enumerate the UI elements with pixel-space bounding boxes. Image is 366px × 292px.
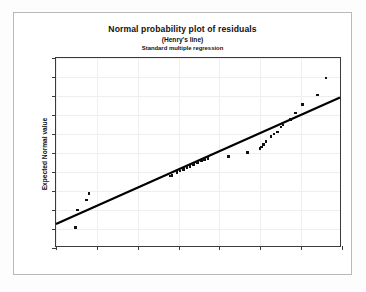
y-axis-tick [52, 96, 56, 97]
data-point [260, 146, 263, 149]
data-point [227, 155, 230, 158]
data-point [192, 163, 195, 166]
data-point [325, 77, 328, 80]
plot-area: Expected Normal value Residuals -40-30-2… [55, 57, 341, 247]
y-axis-tick [52, 77, 56, 78]
chart-subtitle: (Henry's line) [13, 35, 352, 44]
data-point [301, 103, 304, 106]
data-point [182, 168, 185, 171]
data-point [85, 199, 88, 202]
title-block: Normal probability plot of residuals (He… [13, 24, 352, 53]
y-axis-tick [52, 134, 56, 135]
data-point [265, 140, 268, 143]
data-point [76, 209, 79, 212]
x-axis-tick [260, 246, 261, 250]
data-point [270, 135, 273, 138]
y-axis-tick [52, 210, 56, 211]
x-axis-tick [138, 246, 139, 250]
y-axis-tick [52, 115, 56, 116]
data-point [273, 133, 276, 136]
data-point [289, 118, 292, 121]
y-axis-tick [52, 229, 56, 230]
data-point [294, 112, 297, 115]
data-point [203, 158, 206, 161]
y-axis-tick [52, 248, 56, 249]
data-point [282, 124, 285, 127]
data-point [179, 170, 182, 173]
y-axis-title: Expected Normal value [41, 118, 48, 191]
x-axis-tick [219, 246, 220, 250]
y-axis-tick [52, 172, 56, 173]
data-point [176, 171, 179, 174]
data-point [280, 126, 283, 129]
y-axis-tick [52, 191, 56, 192]
data-point [246, 151, 249, 154]
figure-page: Normal probability plot of residuals (He… [0, 0, 366, 292]
y-axis-tick [52, 153, 56, 154]
data-point [74, 226, 77, 229]
x-axis-tick [56, 246, 57, 250]
scatter-points [56, 58, 340, 246]
data-point [262, 143, 265, 146]
data-point [276, 131, 279, 134]
page-title: Normal probability plot of residuals [13, 24, 352, 35]
data-point [88, 192, 91, 195]
data-point [316, 94, 319, 97]
data-point [171, 174, 174, 177]
data-point [189, 165, 192, 168]
x-axis-tick [97, 246, 98, 250]
x-axis-tick [342, 246, 343, 250]
x-axis-tick [179, 246, 180, 250]
data-point [200, 160, 203, 163]
chart-subtitle-secondary: Standard multiple regression [13, 44, 352, 53]
y-axis-tick [52, 58, 56, 59]
data-point [196, 161, 199, 164]
x-axis-tick [301, 246, 302, 250]
data-point [207, 157, 210, 160]
